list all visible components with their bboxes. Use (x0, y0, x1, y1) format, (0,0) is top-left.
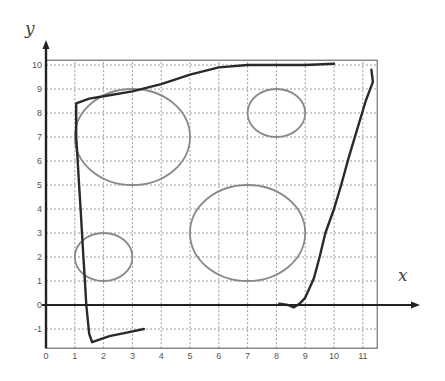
x-tick-label: 6 (216, 351, 221, 361)
y-tick-label: 6 (37, 156, 42, 166)
y-tick-label: -1 (34, 324, 42, 334)
x-tick-label: 8 (274, 351, 279, 361)
x-tick-label: 1 (72, 351, 77, 361)
x-tick-label: 2 (101, 351, 106, 361)
x-axis-arrow-icon (411, 302, 420, 309)
y-tick-label: 2 (37, 252, 42, 262)
hand-drawn-right-curve (279, 70, 373, 308)
y-tick-label: 8 (37, 108, 42, 118)
x-tick-label: 7 (245, 351, 250, 361)
x-axis-label: x (398, 265, 408, 285)
x-tick-label: 3 (130, 351, 135, 361)
tick-labels: 01234567891011109876543210-1 (32, 60, 367, 361)
x-tick-label: 0 (43, 351, 48, 361)
y-tick-label: 4 (37, 204, 42, 214)
y-tick-label: 7 (37, 132, 42, 142)
y-axis-arrow-icon (43, 40, 50, 49)
y-tick-label: 10 (32, 60, 42, 70)
x-tick-label: 11 (358, 351, 367, 361)
coordinate-plane-diagram: 01234567891011109876543210-1 x y (0, 0, 445, 381)
y-tick-label: 5 (37, 180, 42, 190)
x-tick-label: 10 (329, 351, 339, 361)
y-tick-label: 3 (37, 228, 42, 238)
x-tick-label: 5 (187, 351, 192, 361)
y-tick-label: 9 (37, 84, 42, 94)
x-tick-label: 4 (159, 351, 164, 361)
y-axis-label: y (24, 18, 35, 38)
hand-drawn-curve (76, 64, 334, 342)
x-tick-label: 9 (303, 351, 308, 361)
y-tick-label: 1 (37, 276, 42, 286)
y-tick-label: 0 (37, 300, 42, 310)
